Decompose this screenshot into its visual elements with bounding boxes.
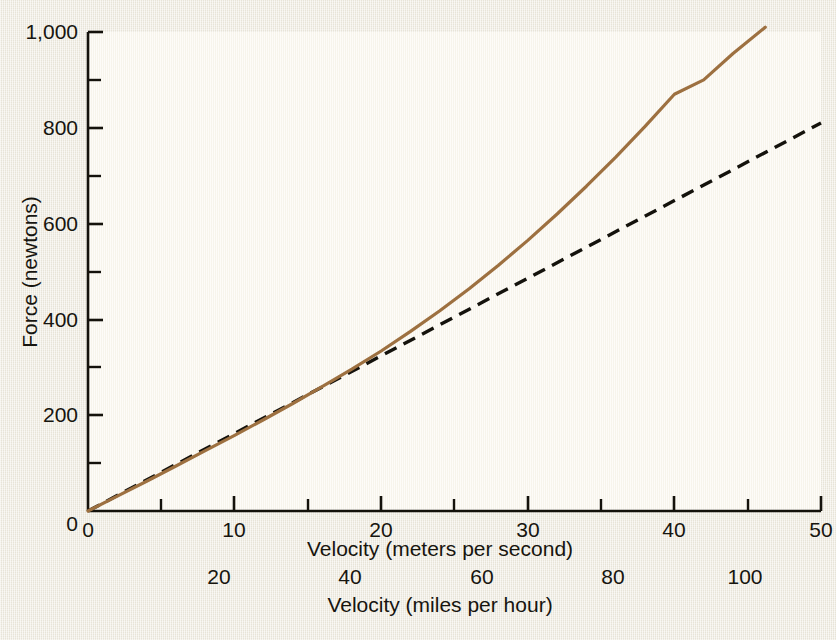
x-axis-major-ticks	[234, 496, 821, 511]
x-tick-label-mph-100: 100	[727, 565, 762, 589]
figure-canvas: 1,000 800 600 400 200 0 Force (newtons) …	[0, 0, 836, 640]
y-tick-label-200: 200	[0, 403, 78, 427]
y-tick-label-1000: 1,000	[0, 20, 78, 44]
axis-spines	[88, 32, 821, 511]
y-axis-major-ticks	[88, 32, 103, 415]
x-tick-label-mph-40: 40	[338, 565, 361, 589]
x-tick-label-40: 40	[662, 518, 685, 542]
y-axis-minor-ticks	[88, 80, 101, 463]
y-tick-label-0: 0	[0, 512, 78, 536]
x-tick-label-mph-80: 80	[601, 565, 624, 589]
x-tick-label-50: 50	[809, 518, 832, 542]
x-axis-title-mph: Velocity (miles per hour)	[327, 593, 552, 617]
x-tick-label-mph-20: 20	[207, 565, 230, 589]
x-axis-minor-ticks	[161, 499, 748, 511]
y-axis-title: Force (newtons)	[18, 196, 42, 348]
x-tick-label-0: 0	[82, 518, 94, 542]
x-tick-label-10: 10	[222, 518, 245, 542]
x-axis-title-mps: Velocity (meters per second)	[307, 537, 573, 561]
y-tick-label-800: 800	[0, 116, 78, 140]
x-tick-label-mph-60: 60	[470, 565, 493, 589]
series-total-drag-force	[88, 27, 765, 511]
